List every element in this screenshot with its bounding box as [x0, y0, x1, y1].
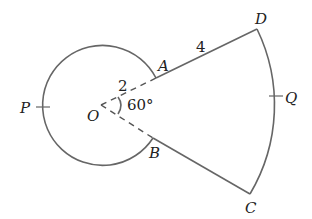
label-d: D [254, 10, 267, 28]
angle-mark [118, 97, 121, 114]
label-angle: 60° [127, 96, 154, 114]
label-oa-length: 2 [118, 77, 128, 95]
segment-bc [153, 138, 250, 194]
label-a: A [156, 57, 169, 75]
label-q: Q [285, 89, 297, 107]
label-p: P [19, 99, 31, 117]
label-c: C [245, 199, 257, 217]
geometry-diagram: P O A B D C Q 2 4 60° [0, 0, 312, 219]
label-b: B [148, 144, 160, 162]
segment-ad [156, 29, 257, 78]
arc-dqc [250, 29, 274, 194]
label-o: O [87, 107, 99, 125]
label-ad-length: 4 [196, 38, 206, 56]
